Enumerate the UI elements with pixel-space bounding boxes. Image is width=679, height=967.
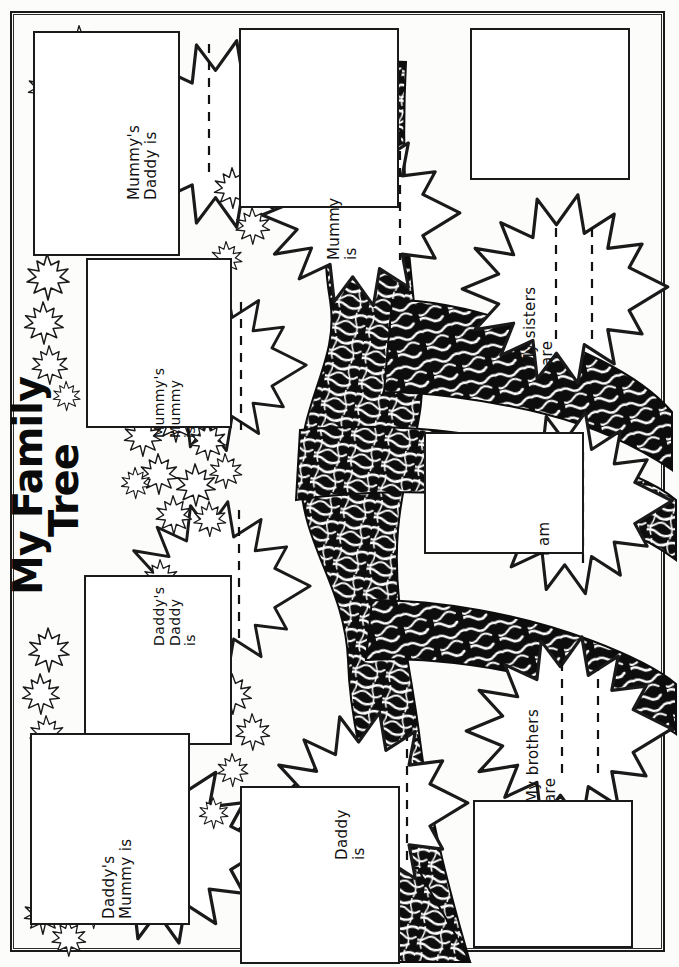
worksheet-page: Mummy's Daddy is Mummy's Mummy is Daddy'… [0, 0, 679, 967]
photo-box-mummys-daddy[interactable] [33, 31, 180, 256]
photo-box-brothers[interactable] [473, 800, 633, 948]
photo-box-daddy[interactable] [240, 786, 400, 964]
photo-box-daddys-daddy[interactable] [84, 575, 232, 745]
page-title: My Family Tree [5, 355, 125, 595]
photo-box-daddys-mummy[interactable] [30, 733, 190, 925]
photo-box-me[interactable] [424, 432, 584, 554]
photo-box-sisters[interactable] [470, 28, 630, 180]
photo-box-mummy[interactable] [239, 28, 399, 208]
